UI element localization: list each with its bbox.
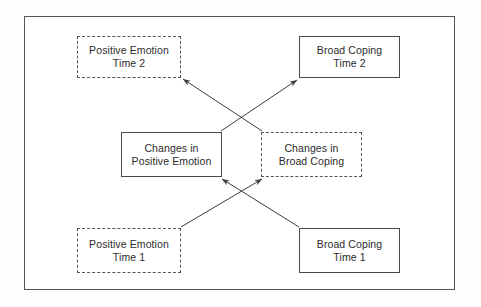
node-label-line2: Positive Emotion [132, 155, 212, 168]
node-positive-emotion-time-1: Positive Emotion Time 1 [77, 228, 181, 273]
node-label-line1: Changes in [279, 142, 344, 155]
node-changes-in-broad-coping: Changes in Broad Coping [261, 132, 362, 177]
arrow-layer [0, 0, 481, 307]
arrow-positive-emotion-time-1-to-changes-broad-coping [181, 179, 262, 227]
node-label-line2: Time 1 [317, 251, 382, 264]
node-positive-emotion-time-2: Positive Emotion Time 2 [77, 36, 181, 78]
node-label-line2: Broad Coping [279, 155, 344, 168]
diagram-page: Positive Emotion Time 2 Broad Coping Tim… [0, 0, 481, 307]
node-label-line1: Broad Coping [317, 44, 382, 57]
node-broad-coping-time-2: Broad Coping Time 2 [299, 36, 400, 78]
arrow-changes-broad-coping-to-positive-emotion-time-2 [183, 79, 262, 131]
node-label-line1: Broad Coping [317, 238, 382, 251]
node-label-line1: Positive Emotion [89, 238, 169, 251]
node-label-line1: Changes in [132, 142, 212, 155]
node-label-line1: Positive Emotion [89, 44, 169, 57]
arrow-broad-coping-time-1-to-changes-positive-emotion [222, 179, 299, 227]
node-label-line2: Time 2 [317, 57, 382, 70]
node-label-line2: Time 2 [89, 57, 169, 70]
node-broad-coping-time-1: Broad Coping Time 1 [299, 228, 400, 273]
node-label-line2: Time 1 [89, 251, 169, 264]
node-changes-in-positive-emotion: Changes in Positive Emotion [121, 132, 222, 177]
arrow-changes-positive-emotion-to-broad-coping-time-2 [221, 80, 297, 131]
